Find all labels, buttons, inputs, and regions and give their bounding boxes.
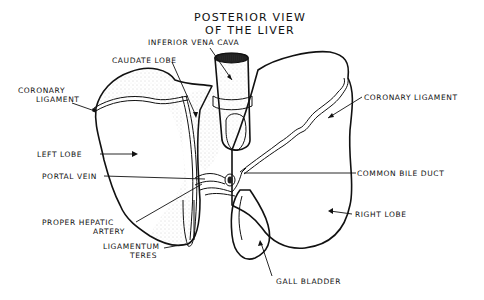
diagram-title-line-2: OF THE LIVER <box>190 25 310 37</box>
label-portal-vein: PORTAL VEIN <box>42 172 97 181</box>
label-common-bile-duct: COMMON BILE DUCT <box>357 169 444 178</box>
label-coronary-ligament-left-line2: LIGAMENT <box>36 95 80 104</box>
label-proper-hepatic-artery-line1: PROPER HEPATIC <box>42 218 114 227</box>
label-caudate-lobe: CAUDATE LOBE <box>112 56 177 65</box>
label-coronary-ligament-right: CORONARY LIGAMENT <box>364 93 458 102</box>
label-coronary-ligament-left-line1: CORONARY <box>18 86 65 95</box>
diagram-title-line-1: POSTERIOR VIEW <box>190 12 310 24</box>
label-right-lobe: RIGHT LOBE <box>355 210 407 219</box>
right-lobe <box>232 52 352 249</box>
label-proper-hepatic-artery-line2: ARTERY <box>93 227 125 236</box>
label-gall-bladder: GALL BLADDER <box>276 277 341 286</box>
gall-bladder <box>231 190 269 259</box>
liver-diagram: POSTERIOR VIEW OF THE LIVER INFERIOR VEN… <box>0 0 484 300</box>
label-ligamentum-teres-line2: TERES <box>130 251 157 260</box>
label-left-lobe: LEFT LOBE <box>37 150 82 159</box>
coronary-ligament-right <box>240 78 348 174</box>
label-inferior-vena-cava: INFERIOR VENA CAVA <box>148 38 239 47</box>
label-ligamentum-teres-line1: LIGAMENTUM <box>103 242 160 251</box>
